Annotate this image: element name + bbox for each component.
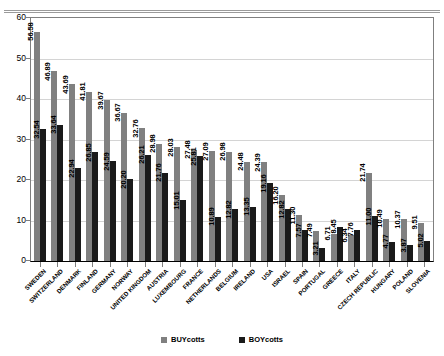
bar-boycotts: 26.21 <box>145 155 151 261</box>
bar-value-label: 27.09 <box>204 142 212 160</box>
bar-group: 27.0910.89 <box>206 18 223 261</box>
bar-value-label: 28.03 <box>169 138 177 156</box>
y-axis-tick-label: 10 <box>2 216 26 225</box>
bar-value-label: 24.48 <box>239 153 247 171</box>
bar-boycotts: 32.54 <box>40 129 46 261</box>
bar-group: 43.6922.94 <box>66 18 83 261</box>
title-divider-bottom <box>4 12 440 13</box>
bar-value-label: 22.94 <box>70 159 78 177</box>
bar-group: 41.8126.85 <box>83 18 100 261</box>
bar-group: 36.6720.20 <box>118 18 135 261</box>
chart-legend: BUYcottsBOYcotts <box>0 336 444 344</box>
bar-value-label: 7.76 <box>350 222 358 236</box>
bar-value-label: 24.39 <box>257 153 265 171</box>
bar-value-label: 21.74 <box>361 164 369 182</box>
y-axis-tick-mark <box>26 58 30 59</box>
y-axis-tick-label: 20 <box>2 175 26 184</box>
bar-value-label: 24.59 <box>105 152 113 170</box>
bar-boycotts: 26.85 <box>92 152 98 261</box>
bar-value-label: 43.69 <box>64 75 72 93</box>
y-axis-tick-label: 40 <box>2 94 26 103</box>
y-axis-tick-mark <box>26 220 30 221</box>
bar-group: 26.9812.82 <box>223 18 240 261</box>
bar-value-label: 15.01 <box>175 191 183 209</box>
y-axis-tick-mark <box>26 179 30 180</box>
bar-value-label: 26.98 <box>222 143 230 161</box>
bar-value-label: 28.98 <box>152 135 160 153</box>
bar-value-label: 21.76 <box>158 164 166 182</box>
bar-value-label: 56.58 <box>29 23 37 41</box>
bar-value-label: 36.67 <box>117 103 125 121</box>
y-axis-tick-label: 50 <box>2 54 26 63</box>
y-axis-tick-label: 60 <box>2 13 26 22</box>
legend-swatch <box>239 337 245 343</box>
bar-value-label: 13.35 <box>245 198 253 216</box>
legend-item[interactable]: BOYcotts <box>239 336 283 344</box>
bars-layer: 56.5832.5446.8933.6443.6922.9441.8126.85… <box>31 18 433 261</box>
legend-item[interactable]: BUYcotts <box>161 336 205 344</box>
bar-group: 46.8933.64 <box>48 18 65 261</box>
bar-value-label: 46.89 <box>47 62 55 80</box>
x-axis-labels: SWEDENSWITZERLANDDENMARKFINLANDGERMANYNO… <box>31 268 433 330</box>
bar-value-label: 41.81 <box>82 83 90 101</box>
bar-value-label: 5.02 <box>420 234 428 248</box>
bar-group: 24.4813.35 <box>241 18 258 261</box>
legend-label: BOYcotts <box>249 336 283 344</box>
y-axis-tick-label: 30 <box>2 135 26 144</box>
legend-swatch <box>161 337 167 343</box>
bar-group: 6.718.45 <box>328 18 345 261</box>
bar-group: 16.2012.82 <box>276 18 293 261</box>
y-axis-tick-mark <box>26 98 30 99</box>
bar-group: 56.5832.54 <box>31 18 48 261</box>
bar-group: 7.493.21 <box>311 18 328 261</box>
bar-value-label: 10.49 <box>379 209 387 227</box>
bar-value-label: 20.20 <box>123 170 131 188</box>
title-divider-top <box>4 10 440 11</box>
bar-boycotts: 33.64 <box>57 125 63 261</box>
bar-value-label: 3.21 <box>315 241 323 255</box>
bar-value-label: 33.64 <box>53 116 61 134</box>
y-axis-tick-mark <box>26 139 30 140</box>
y-axis-tick-mark <box>26 260 30 261</box>
bar-value-label: 32.54 <box>35 120 43 138</box>
bar-group: 9.515.02 <box>416 18 433 261</box>
bar-value-label: 10.37 <box>396 210 404 228</box>
bar-group: 24.3919.16 <box>258 18 275 261</box>
bar-value-label: 4.77 <box>385 235 393 249</box>
bar-group: 6.347.76 <box>346 18 363 261</box>
bar-value-label: 7.49 <box>309 224 317 238</box>
y-axis-tick-label: 0 <box>2 256 26 265</box>
bar-value-label: 26.85 <box>88 143 96 161</box>
bar-value-label: 11.30 <box>292 206 300 224</box>
y-axis-tick-mark <box>26 17 30 18</box>
bar-boycotts: 25.81 <box>197 156 203 261</box>
bar-value-label: 12.82 <box>228 200 236 218</box>
bar-group: 27.4825.81 <box>188 18 205 261</box>
bar-value-label: 19.16 <box>263 174 271 192</box>
bar-value-label: 25.81 <box>193 147 201 165</box>
bar-group: 39.6724.59 <box>101 18 118 261</box>
bar-value-label: 10.89 <box>210 208 218 226</box>
bar-value-label: 9.51 <box>414 215 422 229</box>
bar-value-label: 32.76 <box>134 119 142 137</box>
bar-chart: 0102030405060 56.5832.5446.8933.6443.692… <box>0 0 444 356</box>
bar-boycotts: 24.59 <box>110 161 116 261</box>
legend-label: BUYcotts <box>171 336 205 344</box>
bar-value-label: 12.82 <box>280 200 288 218</box>
bar-value-label: 39.67 <box>99 91 107 109</box>
